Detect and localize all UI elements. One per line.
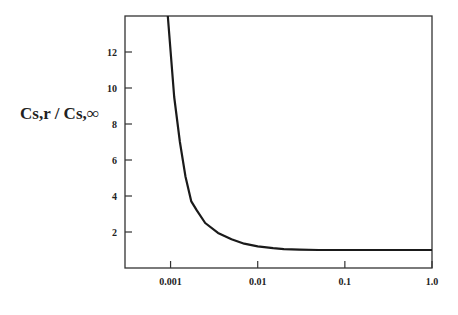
x-tick-label: 0.01 (249, 276, 267, 287)
y-axis-title: Cs,r / Cs,∞ (20, 104, 99, 123)
y-tick-label: 6 (112, 155, 117, 166)
y-tick-label: 12 (107, 47, 117, 58)
y-tick-label: 2 (112, 227, 117, 238)
y-tick-label: 8 (112, 119, 117, 130)
y-tick-label: 4 (112, 191, 117, 202)
x-tick-label: 0.1 (339, 276, 352, 287)
y-axis-ticks: 24681012 (107, 47, 132, 238)
x-tick-label: 1.0 (426, 276, 439, 287)
x-axis-ticks: 0.0010.010.11.0 (159, 261, 438, 287)
y-tick-label: 10 (107, 83, 117, 94)
x-tick-label: 0.001 (159, 276, 182, 287)
data-line (168, 16, 432, 250)
chart-canvas: 24681012 0.0010.010.11.0 Cs,r / Cs,∞ (0, 0, 458, 315)
